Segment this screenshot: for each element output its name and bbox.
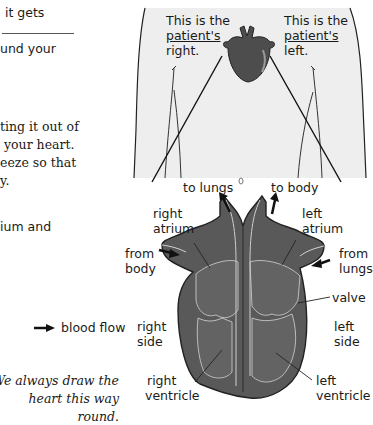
label-line: ventricle	[316, 388, 371, 403]
label-line: patient's	[284, 28, 348, 43]
caption-line: We always draw the	[0, 372, 119, 390]
label-left-ventricle: left ventricle	[316, 373, 371, 403]
label-line: left.	[284, 43, 348, 58]
legend-blood-flow: blood flow	[61, 320, 125, 335]
label-line: This is the	[166, 13, 230, 28]
label-line: lungs	[339, 261, 373, 276]
label-from-body: from body	[125, 246, 156, 276]
label-to-lungs: to lungs	[183, 180, 233, 195]
label-right-side: right side	[137, 319, 166, 349]
label-right-atrium: right atrium	[153, 206, 194, 236]
label-line: This is the	[284, 13, 348, 28]
label-line: atrium	[302, 221, 343, 236]
label-line: left	[334, 319, 360, 334]
label-valve: valve	[332, 290, 366, 305]
label-line: ventricle	[145, 388, 200, 403]
label-line: right	[145, 373, 200, 388]
label-line: right	[137, 319, 166, 334]
label-line: body	[125, 261, 156, 276]
label-patient-right: This is the patient's right.	[166, 13, 230, 58]
label-from-lungs: from lungs	[339, 246, 373, 276]
label-line: from	[125, 246, 156, 261]
label-line: left	[302, 206, 343, 221]
label-line: right.	[166, 43, 230, 58]
label-line: side	[137, 334, 166, 349]
label-line: side	[334, 334, 360, 349]
label-left-atrium: left atrium	[302, 206, 343, 236]
label-right-ventricle: right ventricle	[145, 373, 200, 403]
caption-line: heart this way round.	[0, 390, 119, 425]
label-line: from	[339, 246, 373, 261]
label-left-side: left side	[334, 319, 360, 349]
label-line: patient's	[166, 28, 230, 43]
caption: We always draw the heart this way round.	[0, 372, 119, 425]
label-patient-left: This is the patient's left.	[284, 13, 348, 58]
label-line: left	[316, 373, 371, 388]
label-to-body: to body	[271, 180, 318, 195]
label-line: right	[153, 206, 194, 221]
arrow-right-icon	[34, 324, 55, 332]
label-line: atrium	[153, 221, 194, 236]
